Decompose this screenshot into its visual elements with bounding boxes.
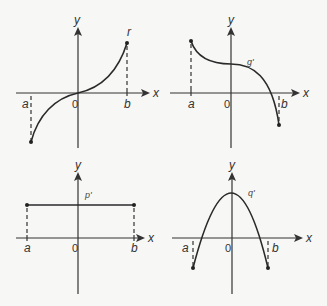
y-axis-label: y: [228, 158, 236, 172]
endpoint-a: [25, 203, 29, 207]
endpoint-a: [191, 266, 195, 270]
a-label: a: [22, 97, 29, 111]
y-axis-label: y: [73, 13, 81, 27]
endpoint-b: [125, 41, 129, 45]
y-axis-label: y: [74, 158, 82, 172]
x-axis-label: x: [152, 86, 160, 100]
function-label: g': [247, 57, 254, 67]
a-label: a: [188, 97, 195, 111]
q-prime-curve: [193, 193, 268, 268]
origin-label: 0: [224, 98, 230, 110]
panel-top-left: y x r 0 a b: [16, 13, 160, 148]
panel-top-right: y x g' 0 a b: [170, 13, 310, 148]
four-graph-diagram: y x r 0 a b y x g' 0 a b y: [0, 0, 327, 306]
origin-label: 0: [72, 242, 78, 254]
endpoint-b: [277, 123, 281, 127]
function-label: p': [84, 190, 92, 200]
b-label: b: [131, 241, 138, 255]
y-axis-label: y: [227, 13, 235, 27]
endpoint-a: [189, 39, 193, 43]
endpoint-b: [266, 266, 270, 270]
x-axis-label: x: [305, 231, 313, 245]
endpoint-a: [29, 140, 33, 144]
b-label: b: [124, 97, 131, 111]
b-label: b: [272, 241, 279, 255]
endpoint-b: [132, 203, 136, 207]
panel-bottom-left: y x p' 0 a b: [16, 158, 155, 294]
origin-label: 0: [225, 242, 231, 254]
origin-label: 0: [72, 98, 78, 110]
a-label: a: [24, 241, 31, 255]
x-axis-label: x: [302, 86, 310, 100]
b-label: b: [281, 97, 288, 111]
g-prime-curve: [191, 41, 279, 125]
function-label: r: [127, 25, 132, 39]
function-label: q': [248, 188, 255, 198]
panel-bottom-right: y x q' 0 a b: [172, 158, 313, 294]
a-label: a: [182, 241, 189, 255]
x-axis-label: x: [147, 231, 155, 245]
